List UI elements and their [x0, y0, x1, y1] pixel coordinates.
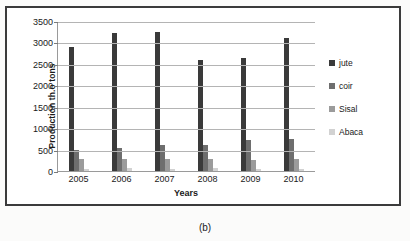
legend-label: Sisal: [339, 104, 357, 114]
legend-label: jute: [339, 58, 353, 68]
y-tick-label: 3000: [23, 38, 53, 48]
y-tick-label: 1000: [23, 124, 53, 134]
bar-abaca-2009: [256, 169, 261, 171]
y-tick-mark: [54, 65, 58, 66]
y-tick-mark: [54, 172, 58, 173]
gridline: [58, 129, 315, 130]
y-tick-mark: [54, 86, 58, 87]
legend-swatch-icon: [329, 106, 335, 112]
bar-abaca-2006: [127, 168, 132, 171]
y-tick-mark: [54, 108, 58, 109]
gridline: [58, 22, 315, 23]
y-tick-label: 0: [23, 167, 53, 177]
y-tick-mark: [54, 129, 58, 130]
bar-abaca-2007: [170, 169, 175, 171]
bar-abaca-2010: [299, 169, 304, 171]
y-tick-mark: [54, 43, 58, 44]
y-tick-label: 2000: [23, 81, 53, 91]
legend-item-sisal[interactable]: Sisal: [329, 104, 397, 114]
y-axis-tick-labels: 0500100015002000250030003500: [21, 22, 53, 172]
y-tick-label: 2500: [23, 60, 53, 70]
x-tick-label: 2008: [188, 174, 228, 184]
x-tick-label: 2007: [145, 174, 185, 184]
gridline: [58, 151, 315, 152]
legend-swatch-icon: [329, 60, 335, 66]
gridline: [58, 43, 315, 44]
bar-abaca-2008: [213, 168, 218, 171]
legend-item-jute[interactable]: jute: [329, 58, 397, 68]
y-tick-mark: [54, 151, 58, 152]
gridline: [58, 65, 315, 66]
figure-frame: Production th.o tons 0500100015002000250…: [5, 6, 401, 206]
x-tick-label: 2010: [274, 174, 314, 184]
y-tick-label: 3500: [23, 17, 53, 27]
chart-legend: jutecoirSisalAbaca: [329, 58, 397, 150]
legend-item-coir[interactable]: coir: [329, 81, 397, 91]
figure-caption: (b): [0, 222, 410, 233]
plot-region: [57, 22, 315, 172]
x-axis-tick-labels: 200520062007200820092010: [57, 174, 315, 184]
chart-area: Production th.o tons 0500100015002000250…: [7, 8, 399, 204]
legend-label: Abaca: [339, 127, 363, 137]
x-tick-label: 2009: [231, 174, 271, 184]
legend-swatch-icon: [329, 129, 335, 135]
x-axis-title: Years: [57, 188, 315, 198]
gridline: [58, 108, 315, 109]
legend-item-abaca[interactable]: Abaca: [329, 127, 397, 137]
legend-label: coir: [339, 81, 353, 91]
y-tick-label: 1500: [23, 103, 53, 113]
bar-abaca-2005: [84, 169, 89, 171]
x-tick-label: 2006: [102, 174, 142, 184]
gridline: [58, 86, 315, 87]
x-tick-label: 2005: [59, 174, 99, 184]
legend-swatch-icon: [329, 83, 335, 89]
y-tick-mark: [54, 22, 58, 23]
y-tick-label: 500: [23, 146, 53, 156]
